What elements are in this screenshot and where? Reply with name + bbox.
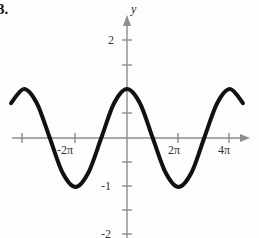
y-axis-label: y (131, 2, 136, 17)
x-axis-arrowhead (240, 134, 250, 142)
y-tick-label-2: 2 (108, 33, 114, 48)
x-tick-label-neg2pi: -2π (57, 143, 73, 158)
y-tick-label-neg2: -2 (101, 227, 111, 238)
y-axis (122, 15, 132, 238)
problem-number-label: 3. (0, 2, 8, 17)
x-tick-label-2pi: 2π (168, 143, 180, 158)
y-axis-arrowhead (123, 15, 131, 26)
figure-container: 3. y 2 -1 -2 (0, 0, 259, 238)
x-tick-label-4pi: 4π (218, 143, 230, 158)
cosine-graph-plot (0, 0, 259, 238)
y-tick-label-neg1: -1 (101, 179, 111, 194)
